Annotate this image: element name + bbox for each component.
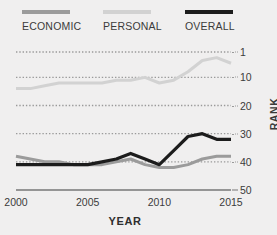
- gridlines: [16, 52, 231, 190]
- y-axis-tick: [232, 77, 238, 78]
- x-axis-title: YEAR: [0, 215, 250, 227]
- line-swatch-icon: [22, 10, 70, 14]
- legend-label-overall: OVERALL: [185, 20, 235, 32]
- legend-item-overall[interactable]: OVERALL: [185, 10, 235, 32]
- plot-svg: [16, 52, 231, 190]
- x-axis-tick-label: 2010: [148, 196, 171, 208]
- y-axis-tick: [232, 190, 238, 191]
- y-axis-tick: [232, 52, 238, 53]
- y-axis-tick: [232, 161, 238, 162]
- series-lines: [16, 58, 231, 168]
- y-axis-tick-label: 10: [240, 71, 252, 83]
- legend-label-personal: PERSONAL: [103, 20, 162, 32]
- legend-label-economic: ECONOMIC: [22, 20, 81, 32]
- y-axis-tick-label: 50: [240, 184, 252, 196]
- y-axis-tick-label: 20: [240, 100, 252, 112]
- chart-legend: ECONOMIC PERSONAL OVERALL: [0, 10, 277, 42]
- plot-area: [16, 52, 231, 190]
- x-axis-tick-label: 2005: [76, 196, 99, 208]
- y-axis-tick-label: 40: [240, 156, 252, 168]
- y-axis-tick: [232, 133, 238, 134]
- chart-figure: ECONOMIC PERSONAL OVERALL 11020304050 RA…: [0, 0, 277, 235]
- x-axis-tick-label: 2015: [219, 196, 242, 208]
- series-line-personal: [16, 58, 231, 89]
- y-axis-title: RANK: [268, 98, 277, 131]
- legend-item-economic[interactable]: ECONOMIC: [22, 10, 81, 32]
- x-axis-tick-label: 2000: [4, 196, 27, 208]
- y-axis-tick-label: 30: [240, 128, 252, 140]
- legend-item-personal[interactable]: PERSONAL: [103, 10, 162, 32]
- line-swatch-icon: [185, 10, 233, 14]
- line-swatch-icon: [103, 10, 151, 14]
- y-axis-tick-label: 1: [240, 46, 246, 58]
- y-axis-tick: [232, 105, 238, 106]
